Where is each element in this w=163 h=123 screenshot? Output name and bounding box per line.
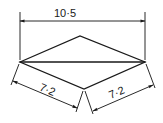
left-side-extension-b [76, 91, 83, 112]
right-side-extension-b [85, 91, 93, 114]
right-side-dimension: 7·2 [85, 64, 155, 114]
rhombus-shape [20, 36, 145, 89]
left-side-dimension-label: 7·2 [38, 81, 57, 98]
rhombus-diagram: 10·5 7·2 7·2 [0, 0, 163, 123]
right-side-extension-a [146, 64, 155, 88]
left-side-dimension: 7·2 [11, 64, 83, 112]
diagonal-dimension-label: 10·5 [54, 7, 76, 19]
top-dimension: 10·5 [20, 7, 145, 60]
